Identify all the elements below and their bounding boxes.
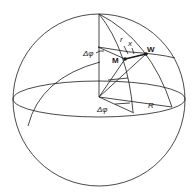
delta-phi-lower-label: Δφ <box>96 105 108 114</box>
delta-phi-upper-label: Δφ <box>82 49 94 58</box>
delta-phi-arc-lower <box>115 103 130 104</box>
sphere-diagram: Δφ M W r x Δφ R <box>0 0 194 195</box>
great-circle-arc <box>28 62 100 126</box>
line-o-w <box>99 54 146 97</box>
point-w-label: W <box>147 45 155 54</box>
point-m <box>123 57 127 61</box>
point-m-label: M <box>112 56 119 65</box>
delta-phi-leader-upper <box>96 51 104 53</box>
x-label: x <box>127 39 133 48</box>
x-tick <box>132 48 134 54</box>
radius-label: R <box>148 101 154 110</box>
r-label: r <box>120 35 123 44</box>
meridian-w <box>99 14 172 107</box>
